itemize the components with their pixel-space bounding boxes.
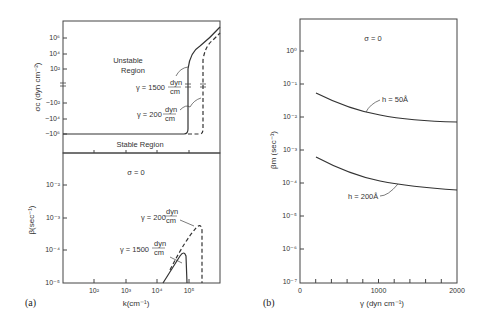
- unit-denominator: cm: [154, 248, 164, 257]
- xtick-label: 2000: [449, 287, 465, 294]
- unstable-region-label: Unstable: [113, 56, 143, 65]
- xtick-label: 10²: [89, 287, 100, 294]
- xtick-label: 10⁵: [184, 287, 195, 294]
- gamma-200-label: γ = 200: [141, 213, 166, 222]
- unit-denominator: cm: [166, 216, 176, 225]
- ytick-label: 10⁻⁴: [45, 246, 60, 253]
- unstable-region-label: Region: [121, 66, 145, 75]
- curve-h-200A: [316, 157, 457, 190]
- ytick-label: 10⁴: [49, 50, 60, 57]
- unit-numerator: dyn: [165, 105, 177, 114]
- panel-a-top-yaxis: 10⁶ 10⁴ 10² −10² −10⁴ −10⁶ σc (dyn cm⁻²): [33, 34, 67, 137]
- y-axis-label: σc (dyn cm⁻²): [33, 62, 42, 111]
- ytick-label: 10⁻⁵: [45, 279, 60, 286]
- xtick-label: 1000: [371, 287, 387, 294]
- ytick-label: 10⁻⁷: [283, 278, 298, 285]
- ytick-label: 10⁰: [286, 47, 297, 54]
- sigma-label: σ = 0: [364, 34, 381, 43]
- ytick-label: 10⁻²: [283, 113, 298, 120]
- ytick-label: 10⁻⁵: [282, 212, 297, 219]
- figure-canvas: 10⁶ 10⁴ 10² −10² −10⁴ −10⁶ σc (dyn cm⁻²)…: [0, 0, 485, 323]
- unit-denominator: cm: [165, 114, 175, 123]
- unit-denominator: cm: [170, 87, 180, 96]
- h-200A-label: h = 200Å: [348, 192, 378, 201]
- gamma-200-label: γ = 200: [137, 110, 162, 119]
- stable-region-label: Stable Region: [116, 140, 163, 149]
- panel-b: 10⁰ 10⁻¹ 10⁻² 10⁻³ 10⁻⁴ 10⁻⁵ 10⁻⁶ 10⁻⁷ β…: [263, 19, 465, 309]
- x-axis-label: k(cm⁻¹): [123, 299, 150, 308]
- curve-gamma-200-bottom: [170, 226, 202, 283]
- curve-gamma-200-top: [188, 33, 220, 134]
- curve-gamma-1500-bottom: [163, 253, 187, 283]
- ytick-label: 10⁶: [49, 34, 60, 41]
- ytick-label: 10⁻³: [46, 214, 61, 221]
- annotation-gamma-1500-bottom: γ = 1500 dyn cm: [120, 239, 182, 263]
- annotation-gamma-200-top: γ = 200 dyn cm: [137, 98, 201, 123]
- xtick-label: 0: [298, 287, 302, 294]
- xtick-label: 10³: [121, 287, 132, 294]
- ytick-label: 10⁻²: [46, 181, 61, 188]
- ytick-label: 10⁻³: [283, 146, 298, 153]
- panel-a-bottom-yaxis: 10⁻² 10⁻³ 10⁻⁴ 10⁻⁵ β(sec⁻¹): [27, 181, 67, 286]
- ytick-label: −10⁶: [45, 130, 60, 137]
- ytick-label: 10²: [50, 65, 61, 72]
- unit-numerator: dyn: [170, 78, 182, 87]
- ytick-label: 10⁻⁶: [282, 245, 297, 252]
- annotation-h-200A: h = 200Å: [348, 184, 398, 201]
- panel-b-frame: [300, 19, 457, 283]
- x-axis-label: γ (dyn cm⁻¹): [360, 299, 404, 308]
- unit-numerator: dyn: [154, 239, 166, 248]
- panel-a-tag: (a): [25, 297, 36, 309]
- y-axis-label: βm (sec⁻¹): [269, 131, 278, 169]
- gamma-1500-label: γ = 1500: [120, 245, 149, 254]
- gamma-1500-label: γ = 1500: [136, 83, 165, 92]
- unit-numerator: dyn: [166, 207, 178, 216]
- xtick-label: 10⁴: [152, 287, 163, 294]
- annotation-h-50A: h = 50Å: [366, 95, 408, 112]
- ytick-label: −10⁴: [45, 115, 60, 122]
- panel-b-tag: (b): [263, 297, 275, 309]
- panel-b-yaxis: 10⁰ 10⁻¹ 10⁻² 10⁻³ 10⁻⁴ 10⁻⁵ 10⁻⁶ 10⁻⁷ β…: [269, 47, 304, 285]
- ytick-label: −10²: [46, 99, 61, 106]
- ytick-label: 10⁻⁴: [282, 179, 297, 186]
- panel-a: 10⁶ 10⁴ 10² −10² −10⁴ −10⁶ σc (dyn cm⁻²)…: [25, 21, 220, 309]
- ytick-label: 10⁻¹: [283, 80, 298, 87]
- h-50A-label: h = 50Å: [382, 95, 408, 104]
- sigma-label: σ = 0: [127, 168, 144, 177]
- y-axis-label: β(sec⁻¹): [27, 205, 36, 234]
- annotation-gamma-200-bottom: γ = 200 dyn cm: [141, 207, 194, 226]
